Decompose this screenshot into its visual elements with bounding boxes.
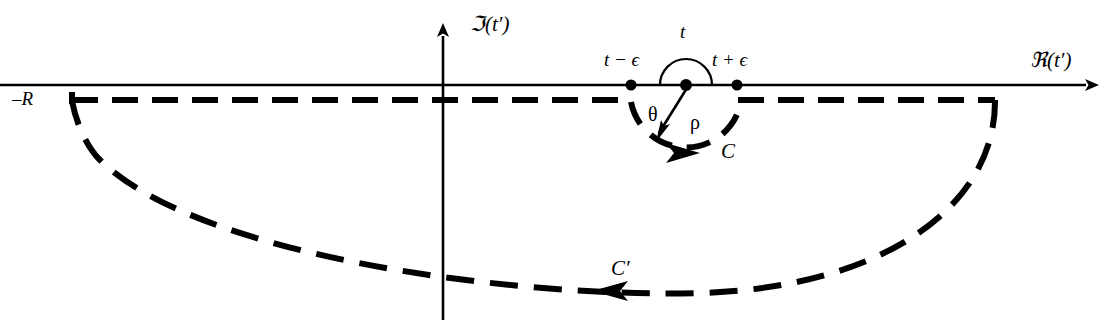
axes-group [0,36,1086,320]
point-t-dot [680,79,692,91]
point-t-minus-epsilon-dot [626,80,637,91]
t-plus-epsilon-label: t + ϵ [712,50,747,69]
rho-radius-group [656,88,687,142]
contour-c-label: C [721,141,735,162]
minus-r-label: –R [12,89,33,108]
theta-label: θ [648,104,658,124]
rho-label: ρ [690,112,700,132]
real-axis-label: ℜ(t′) [1030,50,1071,71]
contour-diagram-figure: ℑ(t′) ℜ(t′) –R t − ϵ t t + ϵ θ ρ C C′ [0,0,1106,320]
t-minus-epsilon-label: t − ϵ [604,50,639,69]
contour-dashed-group [72,92,995,293]
contour-c-prime-label: C′ [611,258,630,279]
point-t-plus-epsilon-dot [732,80,743,91]
imaginary-axis-label: ℑ(t′) [470,14,509,35]
contour-diagram-canvas [0,0,1106,320]
rho-radius-arrowhead [656,120,670,142]
large-arc-C-prime [72,100,995,293]
t-label: t [680,22,685,41]
